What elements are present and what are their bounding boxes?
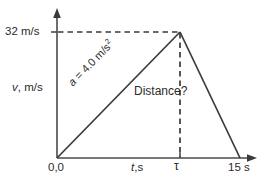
y-axis-title-units: , m/s [18,81,43,93]
deceleration-segment [180,32,240,158]
tau-tick-label: τ [174,160,179,172]
origin-label: 0,0 [48,161,64,173]
x-axis-title-units: ,s [134,161,143,173]
x-max-tick-label: 15 s [228,161,250,173]
y-max-tick-label: 32 m/s [5,25,40,37]
y-axis-arrowhead-icon [53,8,61,18]
velocity-time-graph-figure: 32 m/s v, m/s 0,0 t,s τ 15 s Distance? a… [0,0,274,188]
y-axis-title: v, m/s [12,81,43,93]
x-axis-title: t,s [131,161,143,173]
distance-question-label: Distance? [134,85,187,97]
